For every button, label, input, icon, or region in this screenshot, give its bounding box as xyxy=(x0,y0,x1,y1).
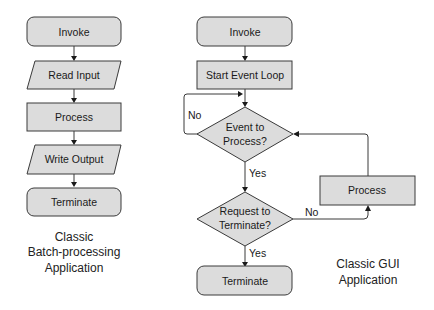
arrow-icon xyxy=(71,98,77,103)
gui-process-label: Process xyxy=(348,184,386,196)
batch-flowchart: Invoke Read Input Process Write Output T… xyxy=(27,17,121,275)
gui-caption-line-1: Classic GUI xyxy=(336,257,399,271)
arrow-icon xyxy=(71,182,77,187)
flowchart-canvas: Invoke Read Input Process Write Output T… xyxy=(0,0,434,310)
arrow-icon xyxy=(242,187,248,192)
arrow-icon xyxy=(238,91,243,97)
batch-caption-line-3: Application xyxy=(45,261,104,275)
gui-event-decision-line-2: Process? xyxy=(223,135,267,147)
batch-read-input-label: Read Input xyxy=(48,69,99,81)
batch-caption-line-2: Batch-processing xyxy=(28,245,121,259)
gui-edge-no-loop-label: No xyxy=(188,109,202,121)
gui-edge-yes-1-label: Yes xyxy=(249,167,266,179)
gui-edge-yes-2-label: Yes xyxy=(249,247,266,259)
batch-process-label: Process xyxy=(55,111,93,123)
arrow-icon xyxy=(293,131,299,137)
gui-invoke-label: Invoke xyxy=(230,26,261,38)
arrow-icon xyxy=(242,102,248,107)
gui-caption-line-2: Application xyxy=(339,273,398,287)
batch-terminate-label: Terminate xyxy=(51,196,97,208)
gui-event-decision-line-1: Event to xyxy=(226,121,265,133)
arrow-icon xyxy=(365,205,371,211)
gui-request-decision-line-1: Request to xyxy=(220,205,271,217)
gui-start-event-loop-label: Start Event Loop xyxy=(206,69,284,81)
arrow-icon xyxy=(71,56,77,61)
arrow-icon xyxy=(71,140,77,145)
batch-caption-line-1: Classic xyxy=(55,230,94,244)
gui-edge-no-2-label: No xyxy=(305,206,319,218)
gui-flowchart: Invoke Start Event Loop No Event to Proc… xyxy=(184,17,415,295)
gui-terminate-label: Terminate xyxy=(222,275,268,287)
arrow-icon xyxy=(242,56,248,61)
batch-invoke-label: Invoke xyxy=(59,26,90,38)
gui-request-decision-line-2: Terminate? xyxy=(219,219,271,231)
batch-write-output-label: Write Output xyxy=(45,153,104,165)
gui-edge-process-return xyxy=(299,134,368,176)
